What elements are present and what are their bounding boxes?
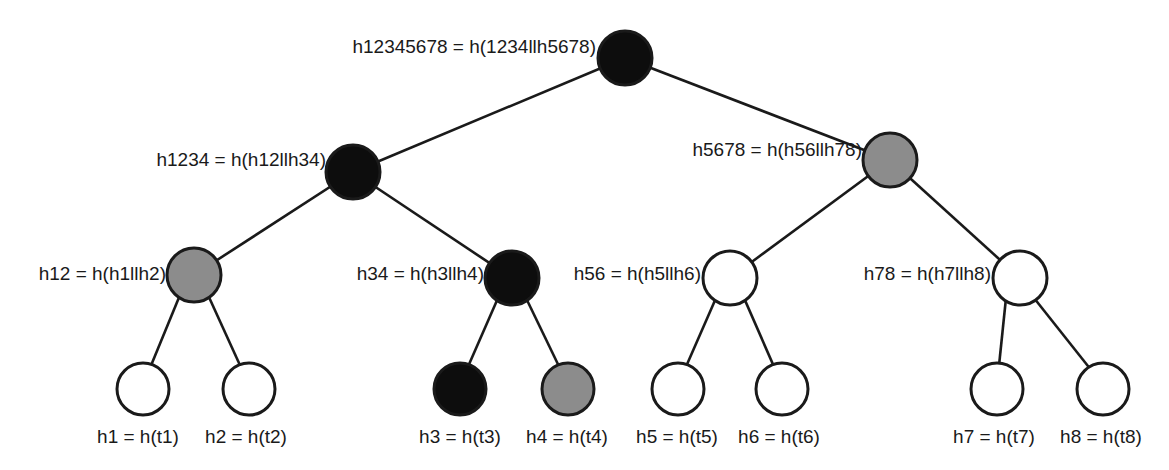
label-h6: h6 = h(t6) [738,426,820,447]
node-h34 [485,251,539,305]
label-h1: h1 = h(t1) [97,426,179,447]
node-h1234 [326,145,380,199]
nodes [117,31,1129,415]
label-h4: h4 = h(t4) [526,426,608,447]
label-h12: h12 = h(h1llh2) [39,263,166,284]
node-h2 [223,363,275,415]
node-h5 [652,363,704,415]
node-h1 [117,363,169,415]
node-h56 [703,251,757,305]
label-root: h12345678 = h(1234llh5678) [352,36,596,57]
node-h7 [971,363,1023,415]
node-h3 [434,363,486,415]
label-h3: h3 = h(t3) [419,426,501,447]
label-h5: h5 = h(t5) [636,426,718,447]
edge-root-h1234 [353,58,625,172]
node-h5678 [863,133,917,187]
edge-h5678-h56 [730,160,890,278]
label-h5678: h5678 = h(h56llh78) [692,139,862,160]
node-h8 [1077,363,1129,415]
node-h4 [542,363,594,415]
label-h34: h34 = h(h3llh4) [357,263,484,284]
edges [143,58,1103,385]
label-h7: h7 = h(t7) [953,426,1035,447]
node-root [598,31,652,85]
label-h1234: h1234 = h(h12llh34) [156,149,326,170]
label-h78: h78 = h(h7llh8) [864,263,991,284]
label-h2: h2 = h(t2) [205,426,287,447]
node-h12 [167,248,221,302]
node-h6 [756,363,808,415]
node-h78 [993,251,1047,305]
merkle-tree-diagram: h12345678 = h(1234llh5678) h1234 = h(h12… [0,0,1169,470]
label-h8: h8 = h(t8) [1060,426,1142,447]
label-h56: h56 = h(h5llh6) [574,263,701,284]
